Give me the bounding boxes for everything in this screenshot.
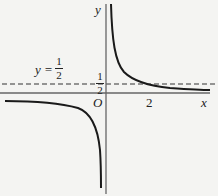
y-axis-label: y (95, 3, 101, 16)
curve-right-branch (111, 4, 210, 90)
graph-canvas (0, 0, 218, 196)
x-axis-label: x (201, 96, 207, 109)
curve-left-branch (5, 101, 101, 188)
origin-label: O (93, 96, 102, 109)
y-tick-half: 1 2 (96, 71, 104, 96)
x-tick-2: 2 (146, 96, 153, 109)
asymptote-fraction: 1 2 (55, 56, 63, 81)
chart-figure: y x O 2 y = 1 2 1 2 (0, 0, 218, 196)
asymptote-equation: y = (35, 63, 53, 76)
